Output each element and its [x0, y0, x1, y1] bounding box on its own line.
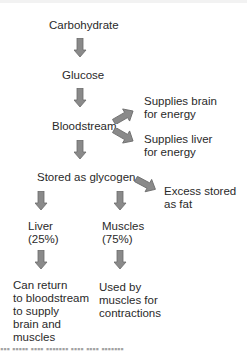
label-line: brain and [13, 318, 89, 331]
label-line: to bloodstream [13, 292, 89, 305]
cropped-caption: ▪▪▪ ▪▪▪▪▪ ▪▪▪▪ ▪▪▪▪▪▪▪ ▪▪▪▪ ▪▪▪▪ ▪▪▪▪▪▪▪ [0, 344, 123, 352]
arrow-down-icon [74, 140, 87, 160]
node-supplies-liver: Supplies liver for energy [144, 133, 212, 159]
label-line: Used by [99, 281, 161, 294]
label-line: muscles [13, 331, 89, 344]
arrow-down-right-icon [134, 176, 160, 196]
label-line: Excess stored [164, 185, 236, 198]
node-excess-fat: Excess stored as fat [164, 185, 236, 211]
arrow-up-right-icon [112, 104, 138, 124]
label-line: for energy [144, 108, 217, 121]
label-line: Supplies brain [144, 95, 217, 108]
node-glucose: Glucose [62, 69, 104, 82]
arrow-down-right-icon [112, 128, 138, 148]
node-muscles: Muscles (75%) [102, 220, 144, 246]
label-line: contractions [99, 307, 161, 320]
node-bloodstream: Bloodstream [52, 120, 117, 133]
label-line: muscles for [99, 294, 161, 307]
arrow-down-icon [114, 191, 127, 211]
label-line: for energy [144, 146, 212, 159]
node-liver-outcome: Can return to bloodstream to supply brai… [13, 279, 89, 344]
arrow-down-icon [74, 38, 87, 58]
node-stored-glycogen: Stored as glycogen [37, 171, 135, 184]
arrow-down-icon [114, 250, 127, 270]
node-muscle-outcome: Used by muscles for contractions [99, 281, 161, 320]
label-line: as fat [164, 198, 236, 211]
arrow-down-icon [35, 250, 48, 270]
label-line: (75%) [102, 233, 144, 246]
top-edge [0, 0, 247, 3]
label-line: Can return [13, 279, 89, 292]
arrow-down-icon [74, 88, 87, 108]
node-supplies-brain: Supplies brain for energy [144, 95, 217, 121]
label-line: Supplies liver [144, 133, 212, 146]
label-line: (25%) [28, 233, 59, 246]
label-line: to supply [13, 305, 89, 318]
label-line: Liver [28, 220, 59, 233]
label-line: Muscles [102, 220, 144, 233]
node-liver: Liver (25%) [28, 220, 59, 246]
arrow-down-icon [35, 191, 48, 211]
node-carbohydrate: Carbohydrate [49, 19, 119, 32]
